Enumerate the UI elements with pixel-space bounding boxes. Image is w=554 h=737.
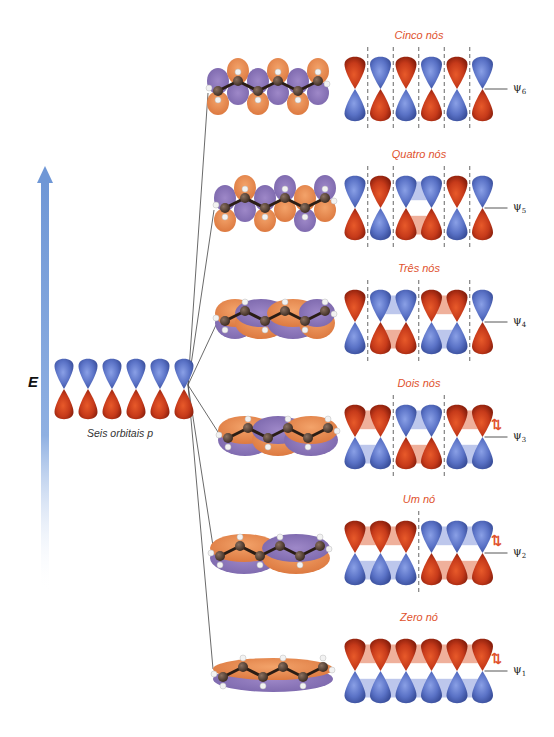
node-count-label-psi2: Um nó	[403, 493, 435, 505]
orbital-lobe	[175, 389, 194, 419]
orbital-lobe	[447, 553, 468, 585]
hydrogen-atom	[302, 327, 308, 333]
carbon-atom	[323, 423, 333, 433]
orbital-lobe	[370, 176, 391, 208]
mo-diagram-psi1	[345, 639, 508, 703]
orbital-lobe	[345, 176, 366, 208]
orbital-lobe	[370, 553, 391, 585]
orbital-lobe	[79, 389, 98, 419]
hexatriene-mo-diagram: E Seis orbitais p Cinco nósψ6Quatro nósψ…	[0, 0, 554, 737]
hydrogen-atom	[325, 416, 331, 422]
carbon-atom	[320, 306, 330, 316]
node-count-label-psi6: Cinco nós	[395, 29, 444, 41]
orbital-lobe	[421, 322, 442, 354]
orbital-lobe	[421, 405, 442, 437]
orbital-lobe	[447, 405, 468, 437]
orbital-lobe	[447, 290, 468, 322]
psi-label-psi4: ψ4	[513, 314, 526, 329]
orbital-lobe	[370, 208, 391, 240]
carbon-atom	[218, 672, 228, 682]
hydrogen-atom	[322, 299, 328, 305]
hydrogen-atom	[237, 534, 243, 540]
orbital-lobe	[396, 290, 417, 322]
orbital-lobe	[370, 322, 391, 354]
orbital-lobe	[421, 639, 442, 671]
orbital-lobe	[472, 89, 493, 121]
orbital-lobe	[103, 359, 122, 389]
hydrogen-atom	[217, 562, 223, 568]
mo-diagram-psi4	[345, 280, 508, 364]
carbon-atom	[315, 541, 325, 551]
hydrogen-atom	[255, 97, 261, 103]
orbital-lobe	[447, 89, 468, 121]
arrow-head-icon	[37, 166, 53, 183]
orbital-lobe	[421, 176, 442, 208]
psi-symbol: ψ	[513, 663, 522, 676]
orbital-lobe	[447, 322, 468, 354]
hydrogen-atom	[282, 186, 288, 192]
orbital-lobe	[421, 671, 442, 703]
carbon-atom	[235, 541, 245, 551]
mo-diagram-psi6	[345, 47, 508, 131]
orbital-lobe	[127, 389, 146, 419]
carbon-atom	[278, 662, 288, 672]
orbital-lobe	[421, 437, 442, 469]
carbon-atom	[233, 76, 243, 86]
orbital-lobe	[345, 405, 366, 437]
orbital-lobe	[447, 671, 468, 703]
orbital-lobe	[472, 437, 493, 469]
orbital-lobe	[370, 671, 391, 703]
hydrogen-atom	[225, 444, 231, 450]
psi-symbol: ψ	[513, 314, 522, 327]
carbon-atom	[313, 76, 323, 86]
orbital-lobe	[370, 639, 391, 671]
psi-symbol: ψ	[513, 200, 522, 213]
molecule-psi3	[216, 416, 340, 456]
orbital-lobe	[396, 437, 417, 469]
carbon-atom	[300, 203, 310, 213]
orbital-lobe	[103, 389, 122, 419]
electron-pair-icon: ⇅	[491, 534, 499, 547]
electron-pair-icon: ⇅	[491, 418, 499, 431]
carbon-atom	[238, 662, 248, 672]
orbital-lobe	[345, 290, 366, 322]
orbital-lobe	[345, 208, 366, 240]
mo-lobe-diagrams	[345, 47, 508, 703]
carbon-atom	[223, 433, 233, 443]
carbon-atom	[263, 433, 273, 443]
orbital-lobe	[175, 359, 194, 389]
orbital-lobe	[79, 359, 98, 389]
hydrogen-atom	[280, 655, 286, 661]
mo-diagram-psi3	[345, 395, 508, 479]
carbon-atom	[275, 541, 285, 551]
orbital-lobe	[345, 57, 366, 89]
carbon-atom	[258, 672, 268, 682]
orbital-lobe	[370, 405, 391, 437]
hydrogen-atom	[262, 214, 268, 220]
orbital-lobe	[447, 437, 468, 469]
hydrogen-atom	[315, 69, 321, 75]
carbon-atom	[280, 193, 290, 203]
psi-subscript: 3	[522, 436, 526, 444]
psi-subscript: 5	[522, 207, 526, 215]
psi-label-psi1: ψ1	[513, 663, 526, 678]
hydrogen-atom	[222, 214, 228, 220]
molecule-psi1	[211, 655, 335, 692]
orbital-lobe	[472, 553, 493, 585]
psi-symbol: ψ	[513, 81, 522, 94]
hydrogen-atom	[262, 327, 268, 333]
molecule-psi5	[213, 175, 337, 232]
carbon-atom	[215, 551, 225, 561]
carbon-atom	[293, 86, 303, 96]
orbital-lobe	[472, 671, 493, 703]
orbital-lobe	[396, 671, 417, 703]
carbon-atom	[253, 86, 263, 96]
node-count-label-psi3: Dois nós	[398, 377, 441, 389]
node-count-label-psi4: Três nós	[398, 262, 440, 274]
orbital-lobe	[472, 639, 493, 671]
hydrogen-atom	[222, 327, 228, 333]
orbital-lobe	[370, 89, 391, 121]
orbital-lobe	[447, 57, 468, 89]
orbital-lobe	[472, 322, 493, 354]
carbon-atom	[260, 203, 270, 213]
